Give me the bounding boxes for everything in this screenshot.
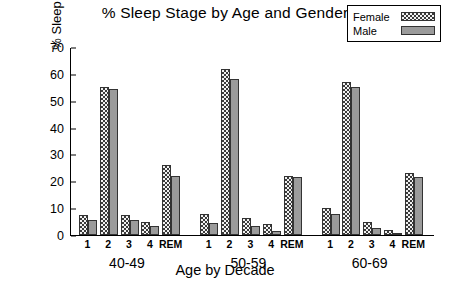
- bar-male-50-59-3: [251, 226, 260, 235]
- stage-2: [100, 48, 121, 235]
- bar-female-60-69-REM: [405, 173, 414, 235]
- y-tick-label-70: 70: [50, 41, 71, 55]
- stage-REM: [284, 48, 305, 235]
- legend-swatch-male-icon: [401, 26, 435, 35]
- bar-male-60-69-3: [372, 228, 381, 235]
- bar-female-60-69-3: [363, 222, 372, 235]
- x-tick-label-50-59-4: 4: [268, 238, 274, 250]
- bar-male-60-69-4: [393, 233, 402, 235]
- stage-REM: [405, 48, 426, 235]
- y-tick-label-0: 0: [57, 229, 71, 243]
- stage-4: [384, 48, 405, 235]
- bar-female-50-59-1: [200, 214, 209, 235]
- bar-male-60-69-2: [351, 87, 360, 235]
- bar-female-50-59-REM: [284, 176, 293, 235]
- bar-female-60-69-1: [322, 208, 331, 235]
- bar-male-40-49-1: [88, 220, 97, 235]
- legend-swatch-female-icon: [401, 12, 435, 21]
- x-tick-label-50-59-3: 3: [247, 238, 253, 250]
- y-tick-label-60: 60: [50, 68, 71, 82]
- stage-2: [342, 48, 363, 235]
- y-tick-label-40: 40: [50, 122, 71, 136]
- bar-group-40-49: [79, 48, 183, 235]
- legend-label-male: Male: [353, 25, 401, 37]
- bar-group-60-69: [322, 48, 426, 235]
- bars-layer: [71, 48, 434, 235]
- bar-female-40-49-1: [79, 215, 88, 235]
- x-tick-label-60-69-REM: REM: [402, 238, 425, 250]
- x-tick-label-40-49-4: 4: [147, 238, 153, 250]
- bar-female-40-49-2: [100, 87, 109, 235]
- x-tick-label-40-49-3: 3: [126, 238, 132, 250]
- x-tick-label-40-49-2: 2: [105, 238, 111, 250]
- bar-male-40-49-2: [109, 89, 118, 235]
- x-tick-label-60-69-4: 4: [390, 238, 396, 250]
- y-tick-label-50: 50: [50, 95, 71, 109]
- stage-4: [141, 48, 162, 235]
- stage-1: [322, 48, 343, 235]
- y-tick-mark-0: [71, 236, 76, 237]
- stage-3: [363, 48, 384, 235]
- stage-1: [200, 48, 221, 235]
- x-tick-label-50-59-REM: REM: [280, 238, 303, 250]
- stage-1: [79, 48, 100, 235]
- x-tick-label-50-59-2: 2: [227, 238, 233, 250]
- bar-male-40-49-REM: [171, 176, 180, 235]
- bar-male-50-59-4: [272, 231, 281, 235]
- bar-male-50-59-REM: [293, 177, 302, 235]
- legend-item-male: Male: [353, 24, 435, 37]
- x-tick-label-60-69-1: 1: [327, 238, 333, 250]
- y-tick-label-20: 20: [50, 175, 71, 189]
- y-tick-label-10: 10: [50, 202, 71, 216]
- stage-2: [221, 48, 242, 235]
- bar-female-40-49-REM: [162, 165, 171, 235]
- x-tick-label-60-69-3: 3: [369, 238, 375, 250]
- bar-female-50-59-4: [263, 224, 272, 235]
- legend-label-female: Female: [353, 11, 401, 23]
- bar-male-50-59-1: [209, 223, 218, 235]
- sleep-stage-bar-chart: % Sleep Stage by Age and Gender Female M…: [0, 0, 450, 298]
- stage-4: [263, 48, 284, 235]
- bar-male-50-59-2: [230, 79, 239, 235]
- bar-female-40-49-3: [121, 215, 130, 235]
- bar-female-60-69-4: [384, 230, 393, 235]
- y-tick-label-30: 30: [50, 148, 71, 162]
- bar-male-40-49-4: [150, 226, 159, 235]
- stage-REM: [162, 48, 183, 235]
- bar-female-40-49-4: [141, 222, 150, 235]
- bar-male-40-49-3: [130, 220, 139, 235]
- x-tick-label-50-59-1: 1: [206, 238, 212, 250]
- bar-group-50-59: [200, 48, 304, 235]
- x-tick-label-60-69-2: 2: [348, 238, 354, 250]
- bar-female-50-59-3: [242, 218, 251, 235]
- stage-3: [242, 48, 263, 235]
- legend-item-female: Female: [353, 10, 435, 23]
- x-tick-label-40-49-REM: REM: [159, 238, 182, 250]
- x-axis-label: Age by Decade: [0, 262, 450, 278]
- x-tick-label-40-49-1: 1: [84, 238, 90, 250]
- bar-female-50-59-2: [221, 69, 230, 236]
- chart-legend: Female Male: [347, 5, 441, 42]
- bar-male-60-69-REM: [414, 177, 423, 235]
- bar-female-60-69-2: [342, 82, 351, 235]
- bar-male-60-69-1: [331, 214, 340, 235]
- plot-area: % Sleep by Stage 010203040506070 1234REM…: [70, 48, 434, 236]
- stage-3: [121, 48, 142, 235]
